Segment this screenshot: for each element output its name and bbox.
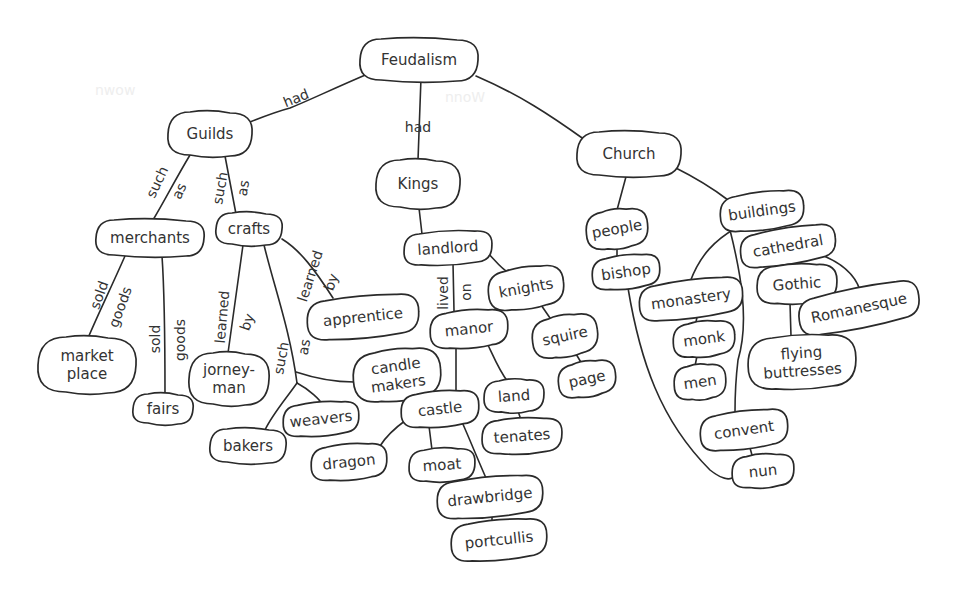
node-flyingbuttresses[interactable]: flyingbuttresses [746, 331, 858, 393]
node-fairs[interactable]: fairs [133, 393, 193, 426]
edge-church-to-buildings [674, 167, 728, 200]
link-label: as [234, 179, 253, 197]
node-label: fairs [147, 400, 180, 418]
link-label: had [281, 86, 311, 111]
link-label: learned [212, 290, 233, 344]
node-nun[interactable]: nun [730, 451, 796, 492]
link-label: learned [294, 248, 326, 303]
concept-map-canvas: nwownnoW hadhadsuchassuchassoldgoodssold… [0, 0, 958, 591]
ghost-mark: nwow [95, 82, 135, 98]
node-feudalism[interactable]: Feudalism [360, 38, 478, 83]
node-label: land [497, 386, 531, 406]
node-portcullis[interactable]: portcullis [449, 515, 549, 565]
edge-landlord-to-manor [453, 263, 454, 311]
node-label: Gothic [772, 273, 822, 294]
edge-church-to-people [617, 173, 627, 210]
link-label: goods [172, 319, 188, 361]
edge-gothic-to-flyingbuttresses [790, 303, 791, 336]
edge-feudalism-to-church [476, 76, 585, 140]
node-label: Church [602, 145, 655, 163]
node-weavers[interactable]: weavers [281, 398, 361, 440]
edge-castle-to-dragon [380, 420, 406, 446]
concept-nodes: FeudalismGuildsKingsChurchmerchantscraft… [38, 38, 923, 565]
link-label: lived [435, 276, 451, 310]
node-people[interactable]: people [583, 204, 651, 255]
node-landlord[interactable]: landlord [403, 228, 494, 269]
edge-kings-to-landlord [419, 208, 422, 234]
link-label: as [168, 180, 189, 201]
node-label: market [60, 347, 113, 365]
node-bakers[interactable]: bakers [210, 428, 286, 465]
edge-junction-to-candlemakers [296, 372, 354, 382]
edge-junction-to-weavers [297, 383, 322, 404]
node-label: Guilds [187, 125, 234, 143]
node-kings[interactable]: Kings [376, 159, 460, 210]
node-page[interactable]: page [555, 355, 620, 403]
node-dragon[interactable]: dragon [309, 440, 389, 484]
edge-manor-to-land [488, 345, 508, 382]
link-label: sold [147, 325, 163, 354]
node-convent[interactable]: convent [698, 405, 791, 455]
node-label: place [67, 365, 107, 383]
link-label: by [237, 311, 258, 333]
node-moat[interactable]: moat [408, 445, 477, 484]
link-label: such [209, 170, 230, 205]
link-label: had [405, 119, 431, 135]
node-label: crafts [228, 220, 271, 238]
node-label: merchants [110, 229, 190, 247]
node-label: jorney- [202, 361, 255, 379]
node-label: man [212, 379, 245, 397]
node-jorneyman[interactable]: jorney-man [189, 352, 269, 407]
node-knights[interactable]: knights [485, 260, 568, 315]
node-merchants[interactable]: merchants [96, 219, 204, 258]
node-label: moat [422, 455, 462, 476]
node-label: nun [748, 461, 778, 482]
link-label: such [270, 340, 291, 375]
node-monk[interactable]: monk [671, 317, 738, 362]
node-church[interactable]: Church [577, 131, 681, 178]
node-tenates[interactable]: tenates [481, 415, 564, 457]
edge-castle-to-moat [429, 426, 432, 450]
node-crafts[interactable]: crafts [216, 212, 282, 247]
link-label: as [295, 338, 314, 356]
edge-buildings-to-monastery [690, 228, 736, 282]
node-label: Feudalism [381, 51, 457, 69]
node-men[interactable]: men [672, 360, 729, 404]
ghost-mark: nnoW [445, 89, 485, 105]
node-apprentice[interactable]: apprentice [305, 290, 421, 344]
node-label: bakers [223, 437, 273, 455]
node-label: Kings [398, 175, 439, 193]
node-land[interactable]: land [483, 377, 546, 416]
node-manor[interactable]: manor [428, 306, 510, 353]
node-marketplace[interactable]: marketplace [38, 336, 136, 395]
node-guilds[interactable]: Guilds [168, 111, 252, 158]
link-label: on [458, 283, 474, 300]
node-squire[interactable]: squire [528, 308, 602, 363]
link-label: by [321, 271, 342, 293]
